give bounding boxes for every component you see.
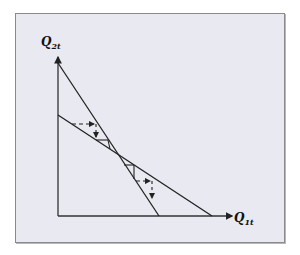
- shallow-reaction-line: [58, 115, 212, 216]
- cobweb-diagram: Q2t Q1t: [0, 0, 300, 255]
- axes: [58, 57, 232, 216]
- steep-reaction-line: [58, 63, 159, 216]
- y-axis-label: Q2t: [41, 35, 61, 51]
- x-axis-label: Q1t: [234, 211, 254, 227]
